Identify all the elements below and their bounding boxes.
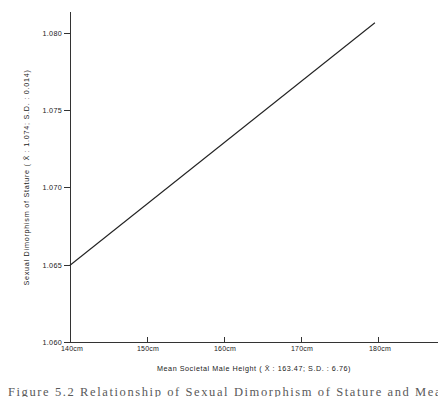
y-axis-line [70,12,71,343]
x-axis-tick-160cm [224,337,225,342]
x-axis-ticklabel-180cm: 180cm [369,345,391,352]
figure-caption: Figure 5.2 Relationship of Sexual Dimorp… [8,385,438,397]
regression-line [70,23,375,266]
y-axis-title: Sexual Dimorphism of Stature ( X̄ : 1.07… [18,12,34,342]
figure-container: 1.080 1.075 1.070 1.065 1.060 140cm 150c… [0,0,442,397]
x-axis-tick-170cm [301,337,302,342]
x-axis-line [70,342,438,343]
x-axis-ticklabel-170cm: 170cm [291,345,313,352]
x-axis-ticklabel-150cm: 150cm [137,345,159,352]
x-axis-ticklabel-160cm: 160cm [214,345,236,352]
x-axis-ticklabel-140cm: 140cm [61,345,83,352]
x-axis-tick-180cm [378,337,379,342]
y-axis-tick-1075 [64,110,70,111]
y-axis-title-text: Sexual Dimorphism of Stature ( X̄ : 1.07… [22,69,31,285]
chart-data-layer [0,0,442,397]
y-axis-tick-1080 [64,33,70,34]
y-axis-tick-1070 [64,187,70,188]
y-axis-tick-1065 [64,265,70,266]
y-axis-tick-1060 [64,342,70,343]
x-axis-tick-140cm [70,337,71,342]
x-axis-title: Mean Societal Male Height ( X̄ : 163.47;… [70,364,438,373]
x-axis-tick-150cm [147,337,148,342]
